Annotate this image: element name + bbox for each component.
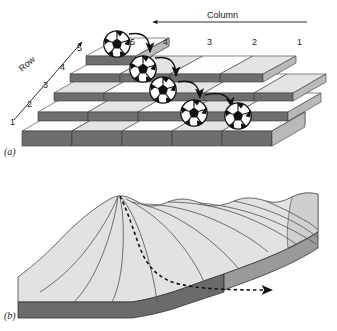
column-axis-label: Column (207, 10, 238, 20)
panel-b-label: (b) (4, 310, 16, 321)
row-tick-2: 2 (27, 99, 32, 109)
column-tick-1: 1 (297, 37, 302, 47)
row-tick-1: 1 (10, 117, 15, 127)
panel-a-label: (a) (4, 146, 16, 157)
row-tick-4: 4 (60, 62, 65, 72)
row-axis-label: Row (17, 54, 38, 74)
row-tick-5: 5 (77, 43, 82, 53)
row-tick-3: 3 (43, 80, 48, 90)
soccer-ball-1 (104, 31, 130, 57)
soccer-ball-4 (181, 100, 207, 126)
panel-b-terrain (18, 193, 318, 318)
soccer-ball-3 (150, 77, 176, 103)
column-tick-5: 5 (130, 37, 135, 47)
soccer-ball-2 (130, 56, 156, 82)
figure-svg: Row Column 1 2 3 4 5 5 4 3 2 1 (0, 0, 337, 331)
column-tick-4: 4 (163, 37, 168, 47)
figure-container: Row Column 1 2 3 4 5 5 4 3 2 1 (a) (b) (0, 0, 337, 331)
column-tick-3: 3 (207, 37, 212, 47)
terrain-top-surface (18, 193, 318, 302)
soccer-ball-5 (225, 103, 251, 129)
column-tick-2: 2 (252, 37, 257, 47)
